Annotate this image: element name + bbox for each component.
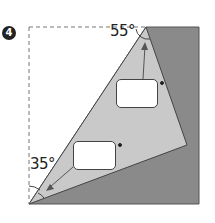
angle-label-55: 55° [110, 22, 135, 40]
degree-symbol-upper [160, 81, 164, 85]
degree-symbol-lower [118, 143, 122, 147]
problem-number-badge: 4 [2, 26, 16, 40]
answer-box-upper[interactable] [116, 79, 158, 108]
angle-label-35: 35° [30, 155, 55, 173]
geometry-diagram [0, 0, 215, 223]
answer-box-lower[interactable] [73, 141, 116, 170]
angle-arc-bottom-left [29, 186, 40, 190]
